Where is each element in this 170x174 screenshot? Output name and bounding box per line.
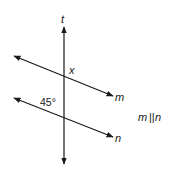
- relation-left: m: [138, 111, 147, 123]
- relation-symbol: ||: [149, 111, 155, 123]
- label-t: t: [61, 13, 65, 25]
- parallel-relation: m || n: [138, 111, 161, 123]
- angle-label-x: x: [68, 64, 75, 76]
- angle-label-45: 45°: [40, 96, 56, 108]
- relation-right: n: [155, 111, 161, 123]
- diagram-canvas: t m n x 45° m || n: [0, 0, 170, 174]
- label-n: n: [115, 132, 121, 144]
- label-m: m: [115, 91, 124, 103]
